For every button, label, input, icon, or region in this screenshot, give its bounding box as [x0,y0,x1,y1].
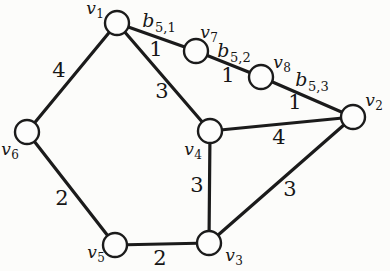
edge-weight-v1-v7: 1 [149,37,162,61]
edge-weight-v8-v2: 1 [288,90,301,114]
edge-weight-v4-v3: 3 [190,173,203,197]
edge-weight-v7-v8: 1 [221,63,234,87]
node-v5 [103,233,127,257]
edge-v5-v3 [115,243,209,245]
node-v6 [15,120,39,144]
edge-weight-v6-v5: 2 [55,186,68,210]
node-v2 [341,105,365,129]
node-v4 [198,119,222,143]
edge-weight-v1-v6: 4 [52,58,65,82]
edge-v4-v3 [209,131,210,243]
graph-canvas: b5,11b5,21b5,314343322v1v2v3v4v5v6v7v8 [0,0,390,271]
edge-weight-v5-v3: 2 [153,246,166,270]
edge-weight-v4-v2: 4 [272,125,285,149]
node-v3 [197,231,221,255]
edge-weight-v1-v4: 3 [155,79,168,103]
node-v7 [184,39,208,63]
node-v1 [105,11,129,35]
node-v8 [249,65,273,89]
graph-diagram: b5,11b5,21b5,314343322v1v2v3v4v5v6v7v8 [0,0,390,271]
edge-weight-v3-v2: 3 [283,177,296,201]
